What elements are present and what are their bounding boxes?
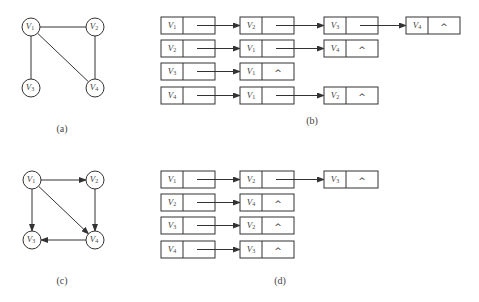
list-node: V1 bbox=[240, 40, 324, 57]
list-node: V4^ bbox=[324, 40, 378, 57]
list-node: V2^ bbox=[240, 217, 294, 234]
edge-V1-V4 bbox=[39, 186, 89, 234]
edge-V1-V4 bbox=[38, 33, 89, 82]
head-node: V3 bbox=[161, 63, 240, 80]
null-pointer: ^ bbox=[358, 92, 366, 102]
null-pointer: ^ bbox=[358, 176, 366, 186]
list-node: V1^ bbox=[240, 63, 294, 80]
list-node: V2 bbox=[240, 17, 324, 34]
null-pointer: ^ bbox=[274, 199, 282, 209]
list-node: V3^ bbox=[324, 171, 378, 188]
head-node: V4 bbox=[161, 241, 240, 258]
caption-c: (c) bbox=[56, 275, 67, 286]
null-pointer: ^ bbox=[274, 222, 282, 232]
directed-graph-c: V1V2V3V4 bbox=[23, 171, 104, 249]
null-pointer: ^ bbox=[274, 246, 282, 256]
caption-a: (a) bbox=[56, 123, 67, 134]
null-pointer: ^ bbox=[358, 45, 366, 55]
list-node: V3^ bbox=[240, 241, 294, 258]
list-node: V4^ bbox=[240, 194, 294, 211]
head-node: V1 bbox=[161, 17, 240, 34]
adjacency-list-b: V1V2V3V4^V2V1V4^V3V1^V4V1V2^ bbox=[161, 17, 460, 104]
head-node: V3 bbox=[161, 217, 240, 234]
list-node: V2 bbox=[240, 171, 324, 188]
head-node: V2 bbox=[161, 40, 240, 57]
adjacency-list-d: V1V2V3^V2V4^V3V2^V4V3^ bbox=[161, 171, 378, 258]
list-node: V3 bbox=[324, 17, 406, 34]
diagram-canvas: V1V2V3V4 V1V2V3V4^V2V1V4^V3V1^V4V1V2^ V1… bbox=[0, 0, 479, 302]
head-node: V1 bbox=[161, 171, 240, 188]
list-node: V1 bbox=[240, 87, 324, 104]
head-node: V2 bbox=[161, 194, 240, 211]
list-node: V4^ bbox=[406, 17, 460, 34]
null-pointer: ^ bbox=[274, 68, 282, 78]
list-node: V2^ bbox=[324, 87, 378, 104]
caption-b: (b) bbox=[306, 115, 318, 126]
undirected-graph-a: V1V2V3V4 bbox=[22, 18, 104, 97]
head-node: V4 bbox=[161, 87, 240, 104]
caption-d: (d) bbox=[274, 275, 286, 286]
null-pointer: ^ bbox=[440, 22, 448, 32]
